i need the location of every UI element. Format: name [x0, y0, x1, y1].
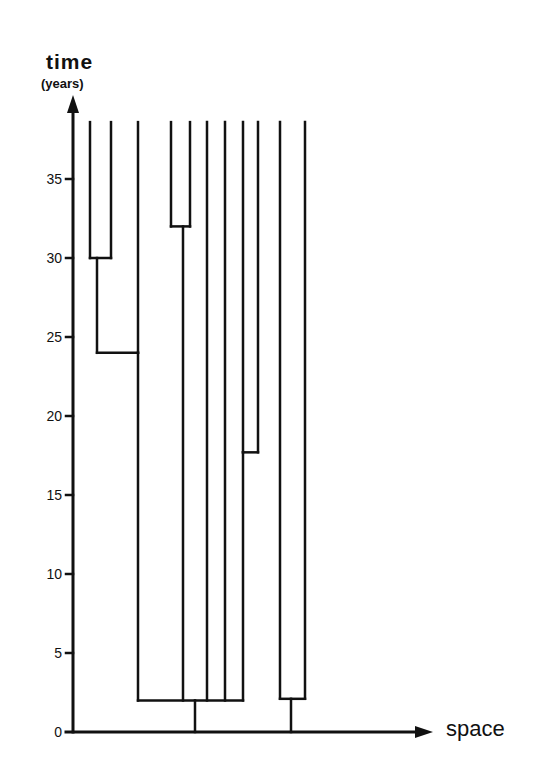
x-axis-arrow-icon — [415, 726, 433, 738]
y-axis-arrow-icon — [67, 95, 79, 113]
lineage-tree — [90, 122, 305, 732]
y-tick-label: 25 — [46, 329, 62, 345]
axes: 05101520253035 — [46, 95, 433, 740]
genealogy-tree-diagram: 05101520253035 — [0, 0, 539, 776]
y-tick-label: 35 — [46, 171, 62, 187]
y-tick-label: 20 — [46, 408, 62, 424]
y-tick-label: 30 — [46, 250, 62, 266]
y-tick-label: 5 — [54, 645, 62, 661]
y-tick-label: 0 — [54, 724, 62, 740]
y-tick-label: 15 — [46, 487, 62, 503]
y-tick-label: 10 — [46, 566, 62, 582]
